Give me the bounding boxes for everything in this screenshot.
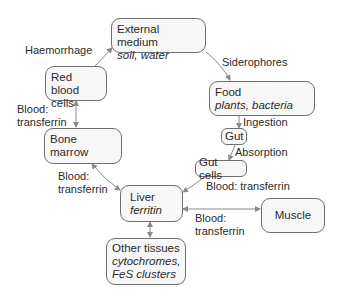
label-gut-liver: Blood: transferrin	[206, 180, 290, 193]
node-food: Food plants, bacteria	[209, 81, 315, 116]
node-title: Food	[215, 86, 309, 99]
node-bone-marrow: Bone marrow	[44, 128, 122, 164]
label-ingestion: Ingestion	[243, 116, 288, 129]
node-title-line2: cells	[51, 97, 101, 110]
node-subtitle: soil, water	[117, 49, 200, 62]
label-liver-muscle-line2: transferrin	[195, 225, 245, 238]
node-subtitle-line1: cytochromes,	[112, 255, 180, 268]
node-title: Gut	[225, 130, 243, 143]
node-external-medium: External medium soil, water	[111, 18, 206, 53]
node-gut: Gut	[221, 128, 247, 145]
node-other-tissues: Other tissues cytochromes, FeS clusters	[106, 238, 186, 285]
node-gut-cells: Gut cells	[195, 160, 247, 177]
node-title-line1: Red blood	[51, 71, 101, 97]
node-title: Other tissues	[112, 242, 180, 255]
label-liver-muscle-line1: Blood:	[195, 212, 226, 225]
label-absorption: Absorption	[235, 146, 288, 159]
node-title: External medium	[117, 23, 200, 49]
node-title: Muscle	[275, 209, 311, 222]
node-subtitle: ferritin	[130, 204, 177, 217]
label-rbc-bonemarrow-line1: Blood:	[17, 103, 48, 116]
node-liver: Liver ferritin	[120, 185, 183, 222]
node-title: Gut cells	[199, 156, 243, 182]
node-title: Liver	[130, 191, 177, 204]
label-bonemarrow-liver-line1: Blood:	[58, 170, 89, 183]
label-siderophores: Siderophores	[222, 56, 287, 69]
node-subtitle-line2: FeS clusters	[112, 268, 180, 281]
node-title: Bone marrow	[50, 133, 116, 159]
label-haemorrhage: Haemorrhage	[25, 44, 92, 57]
arrow-haemorrhage	[95, 48, 112, 66]
node-muscle: Muscle	[261, 198, 325, 233]
label-rbc-bonemarrow-line2: transferrin	[17, 116, 67, 129]
node-red-blood-cells: Red blood cells	[45, 66, 107, 101]
label-bonemarrow-liver-line2: transferrin	[58, 183, 108, 196]
node-subtitle: plants, bacteria	[215, 99, 309, 112]
